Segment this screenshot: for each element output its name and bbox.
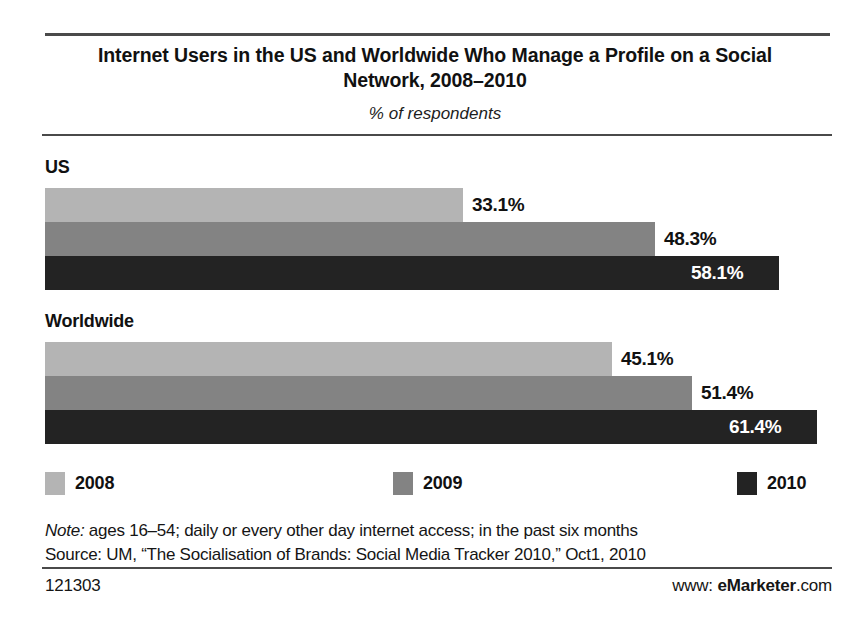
bar-row-worldwide-2010: 61.4% — [45, 410, 830, 444]
bar-row-us-2010: 58.1% — [45, 256, 830, 290]
bar-value-us-2009: 48.3% — [664, 228, 716, 250]
bar-value-worldwide-2009: 51.4% — [701, 382, 753, 404]
legend-item-2009[interactable]: 2009 — [393, 472, 462, 495]
chart-card: Internet Users in the US and Worldwide W… — [0, 0, 864, 640]
group-label-worldwide: Worldwide — [45, 311, 134, 332]
bar-value-worldwide-2010: 61.4% — [729, 416, 781, 438]
bar-value-us-2008: 33.1% — [472, 194, 524, 216]
bar-us-2010[interactable] — [45, 256, 779, 290]
bar-worldwide-2010[interactable] — [45, 410, 817, 444]
source-line: Source: UM, “The Socialisation of Brands… — [45, 543, 835, 567]
brand-suffix: .com — [796, 576, 832, 595]
legend-label-2008: 2008 — [75, 473, 114, 494]
bar-row-us-2008: 33.1% — [45, 188, 830, 222]
brand-prefix: www: — [672, 576, 717, 595]
bar-worldwide-2008[interactable] — [45, 342, 612, 376]
note-line: Note: ages 16–54; daily or every other d… — [45, 519, 835, 543]
legend-item-2008[interactable]: 2008 — [45, 472, 114, 495]
legend-swatch-2010 — [737, 472, 757, 495]
bar-row-us-2009: 48.3% — [45, 222, 830, 256]
note-text: ages 16–54; daily or every other day int… — [84, 521, 637, 540]
group-label-us: US — [45, 157, 70, 178]
bar-value-worldwide-2008: 45.1% — [621, 348, 673, 370]
legend-label-2009: 2009 — [423, 473, 462, 494]
brand-name: eMarketer — [717, 576, 796, 595]
bar-us-2009[interactable] — [45, 222, 655, 256]
legend-swatch-2008 — [45, 472, 65, 495]
bar-row-worldwide-2009: 51.4% — [45, 376, 830, 410]
footer-divider-rule — [42, 567, 832, 569]
legend-label-2010: 2010 — [767, 473, 806, 494]
brand-attribution[interactable]: www: eMarketer.com — [672, 576, 832, 596]
legend-item-2010[interactable]: 2010 — [737, 472, 806, 495]
chart-notes: Note: ages 16–54; daily or every other d… — [45, 519, 835, 567]
note-label: Note: — [45, 521, 84, 540]
bar-row-worldwide-2008: 45.1% — [45, 342, 830, 376]
bar-us-2008[interactable] — [45, 188, 463, 222]
chart-footer: 121303 www: eMarketer.com — [45, 576, 832, 604]
chart-legend: 2008 2009 2010 — [45, 472, 830, 498]
legend-swatch-2009 — [393, 472, 413, 495]
bar-worldwide-2009[interactable] — [45, 376, 692, 410]
bar-value-us-2010: 58.1% — [691, 262, 743, 284]
chart-id: 121303 — [45, 576, 101, 596]
